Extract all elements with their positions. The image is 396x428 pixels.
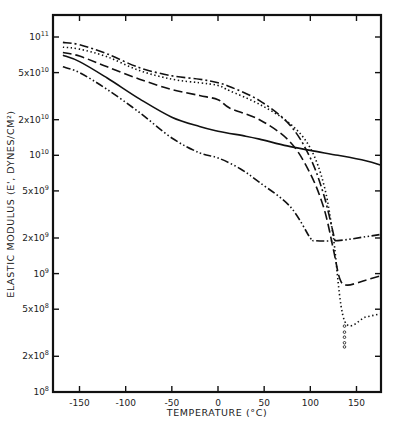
y-tick-label: 5x1010: [18, 66, 49, 78]
y-tick-label: 5x108: [22, 302, 49, 314]
data-point-circle: [343, 346, 346, 349]
series-dash-dot: [63, 42, 335, 242]
series-layer: [63, 42, 382, 348]
y-tick-label: 109: [33, 267, 49, 279]
y-tick-label: 1010: [29, 148, 49, 160]
y-axis-title-text: ELASTIC MODULUS (E', DYNES/CM²): [5, 110, 16, 297]
y-tick-label: 2x108: [22, 349, 49, 361]
y-tick-label: 2x1010: [18, 113, 49, 125]
data-point-circle: [343, 331, 346, 334]
y-axis-title: ELASTIC MODULUS (E', DYNES/CM²): [5, 110, 16, 297]
x-axis-title: TEMPERATURE (°C): [166, 407, 268, 418]
y-tick-label: 5x109: [22, 184, 49, 196]
data-point-circle: [343, 336, 346, 339]
x-tick-label: 100: [302, 398, 319, 408]
y-tick-label: 108: [33, 385, 49, 397]
y-tick-label: 2x109: [22, 231, 49, 243]
data-point-circle: [343, 325, 346, 328]
series-dotted: [63, 47, 382, 326]
data-point-circle: [343, 342, 346, 345]
plot-frame: [53, 15, 381, 392]
series-solid: [63, 55, 382, 165]
elastic-modulus-chart: -150-100-50050100150 10115x10102x1010101…: [0, 0, 396, 428]
y-axis-ticks: 10115x10102x101010105x1092x1091095x1082x…: [18, 30, 381, 397]
x-axis-ticks: -150-100-50050100150: [69, 15, 365, 408]
x-tick-label: -100: [115, 398, 136, 408]
y-tick-label: 1011: [29, 30, 49, 42]
x-tick-label: -150: [69, 398, 90, 408]
x-tick-label: 150: [348, 398, 365, 408]
